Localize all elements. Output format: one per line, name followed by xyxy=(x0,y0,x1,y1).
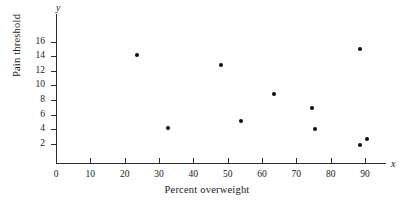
x-tick-label: 30 xyxy=(154,170,164,180)
x-tick-mark xyxy=(365,158,366,163)
y-tick-label: 2 xyxy=(0,139,45,149)
x-axis-line xyxy=(56,163,386,164)
x-tick-label: 90 xyxy=(360,170,370,180)
y-tick-mark xyxy=(51,144,56,145)
x-tick-label: 40 xyxy=(189,170,199,180)
data-point xyxy=(239,119,243,123)
x-axis-title: Percent overweight xyxy=(0,184,414,195)
x-tick-label: 60 xyxy=(257,170,267,180)
x-tick-mark xyxy=(262,158,263,163)
x-tick-mark xyxy=(331,158,332,163)
x-tick-label: 70 xyxy=(292,170,302,180)
y-tick-label: 4 xyxy=(0,124,45,134)
y-axis-line xyxy=(56,14,57,164)
y-tick-mark xyxy=(51,115,56,116)
y-tick-mark xyxy=(51,42,56,43)
data-point xyxy=(310,106,314,110)
y-tick-label: 12 xyxy=(0,66,45,76)
data-point xyxy=(313,127,317,131)
x-tick-mark xyxy=(159,158,160,163)
y-tick-mark xyxy=(51,85,56,86)
x-tick-label: 0 xyxy=(54,170,59,180)
data-point xyxy=(135,53,139,57)
x-tick-label: 20 xyxy=(120,170,130,180)
x-tick-mark xyxy=(125,158,126,163)
data-point xyxy=(219,63,223,67)
x-tick-mark xyxy=(296,158,297,163)
y-tick-mark xyxy=(51,100,56,101)
y-tick-label: 14 xyxy=(0,51,45,61)
y-tick-mark xyxy=(51,56,56,57)
y-axis-symbol: y xyxy=(56,2,60,13)
x-axis-symbol: x xyxy=(391,158,395,169)
y-tick-label: 8 xyxy=(0,95,45,105)
data-point xyxy=(358,143,362,147)
data-point xyxy=(365,137,369,141)
y-tick-label: 16 xyxy=(0,37,45,47)
scatter-plot-figure: y x Percent overweight Pain threshold 01… xyxy=(0,0,414,207)
y-tick-mark xyxy=(51,71,56,72)
x-tick-label: 10 xyxy=(86,170,96,180)
y-tick-label: 10 xyxy=(0,81,45,91)
x-tick-label: 80 xyxy=(326,170,336,180)
y-tick-label: 6 xyxy=(0,110,45,120)
x-tick-label: 50 xyxy=(223,170,233,180)
data-point xyxy=(166,126,170,130)
x-tick-mark xyxy=(193,158,194,163)
y-tick-mark xyxy=(51,129,56,130)
x-tick-mark xyxy=(228,158,229,163)
data-point xyxy=(358,47,362,51)
x-tick-mark xyxy=(56,158,57,163)
x-tick-mark xyxy=(90,158,91,163)
data-point xyxy=(272,92,276,96)
